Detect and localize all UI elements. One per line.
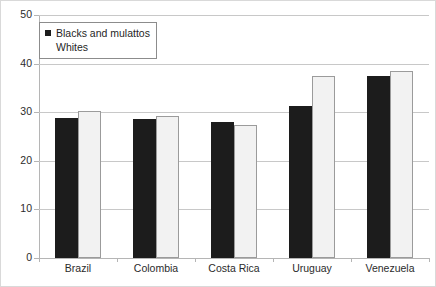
white-square-marker-icon xyxy=(45,44,51,50)
bar xyxy=(312,76,335,258)
x-axis-tick-label: Colombia xyxy=(117,261,195,276)
x-axis-labels: BrazilColombiaCosta RicaUruguayVenezuela xyxy=(39,261,429,281)
bar xyxy=(156,116,179,258)
x-axis-tick-label: Venezuela xyxy=(351,261,429,276)
legend-item-label: Blacks and mulattos xyxy=(56,28,150,39)
bar xyxy=(367,76,390,258)
x-axis-tick-label: Brazil xyxy=(39,261,117,276)
y-axis-tick-mark xyxy=(34,15,39,16)
bar xyxy=(234,125,257,258)
y-axis-tick-mark xyxy=(34,161,39,162)
bar-chart-figure: 01020304050 BrazilColombiaCosta RicaUrug… xyxy=(0,0,436,287)
y-axis-tick-mark xyxy=(34,64,39,65)
x-axis-line xyxy=(39,258,429,259)
y-axis-tick-label: 0 xyxy=(4,252,32,263)
bar-group xyxy=(351,15,429,258)
bar-group xyxy=(195,15,273,258)
legend-item-whites: Whites xyxy=(45,40,150,54)
bar xyxy=(55,118,78,258)
x-axis-tick-label: Uruguay xyxy=(273,261,351,276)
bar xyxy=(211,122,234,258)
y-axis-tick-label: 30 xyxy=(4,106,32,117)
bar xyxy=(390,71,413,258)
bar xyxy=(78,111,101,258)
y-axis-tick-label: 40 xyxy=(4,58,32,69)
y-axis-tick-label: 20 xyxy=(4,155,32,166)
y-axis-tick-mark xyxy=(34,112,39,113)
filled-square-marker-icon xyxy=(45,30,51,36)
y-axis-tick-label: 10 xyxy=(4,203,32,214)
y-axis-tick-label: 50 xyxy=(4,9,32,20)
legend-item-blacks-and-mulattos: Blacks and mulattos xyxy=(45,26,150,40)
x-axis-tick-label: Costa Rica xyxy=(195,261,273,276)
x-axis-tick-mark xyxy=(429,258,430,262)
chart-legend: Blacks and mulattos Whites xyxy=(39,22,157,59)
legend-item-label: Whites xyxy=(56,42,88,53)
bar xyxy=(133,119,156,258)
y-axis-labels: 01020304050 xyxy=(1,1,32,287)
bar-group xyxy=(273,15,351,258)
bar xyxy=(289,106,312,258)
y-axis-tick-mark xyxy=(34,209,39,210)
